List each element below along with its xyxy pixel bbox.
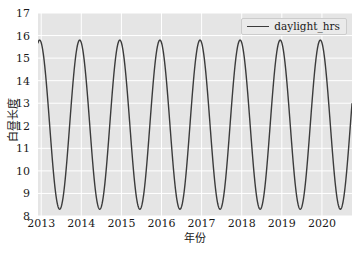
x-axis-title: 年份 xyxy=(38,233,352,244)
x-tick-label: 2013 xyxy=(27,218,55,229)
chart-figure: 891011121314151617 daylight_hrs 20132014… xyxy=(0,0,357,257)
x-tick-label: 2014 xyxy=(67,218,95,229)
x-tick-label: 2019 xyxy=(268,218,296,229)
x-tick-label: 2017 xyxy=(188,218,216,229)
x-tick-label: 2016 xyxy=(148,218,176,229)
legend[interactable]: daylight_hrs xyxy=(241,18,347,35)
data-series-group xyxy=(38,40,352,209)
y-tick-label: 16 xyxy=(16,30,30,41)
plot-canvas xyxy=(38,13,352,216)
y-tick-label: 17 xyxy=(16,8,30,19)
plot-area: daylight_hrs xyxy=(38,13,352,216)
series-line xyxy=(38,40,352,209)
legend-entry-label: daylight_hrs xyxy=(274,21,340,32)
y-tick-label: 9 xyxy=(23,188,30,199)
legend-line-sample-icon xyxy=(247,26,269,27)
x-tick-label: 2018 xyxy=(228,218,256,229)
y-axis-title: 白昼长度 xyxy=(8,60,19,180)
x-tick-label: 2015 xyxy=(107,218,135,229)
x-tick-label: 2020 xyxy=(308,218,336,229)
